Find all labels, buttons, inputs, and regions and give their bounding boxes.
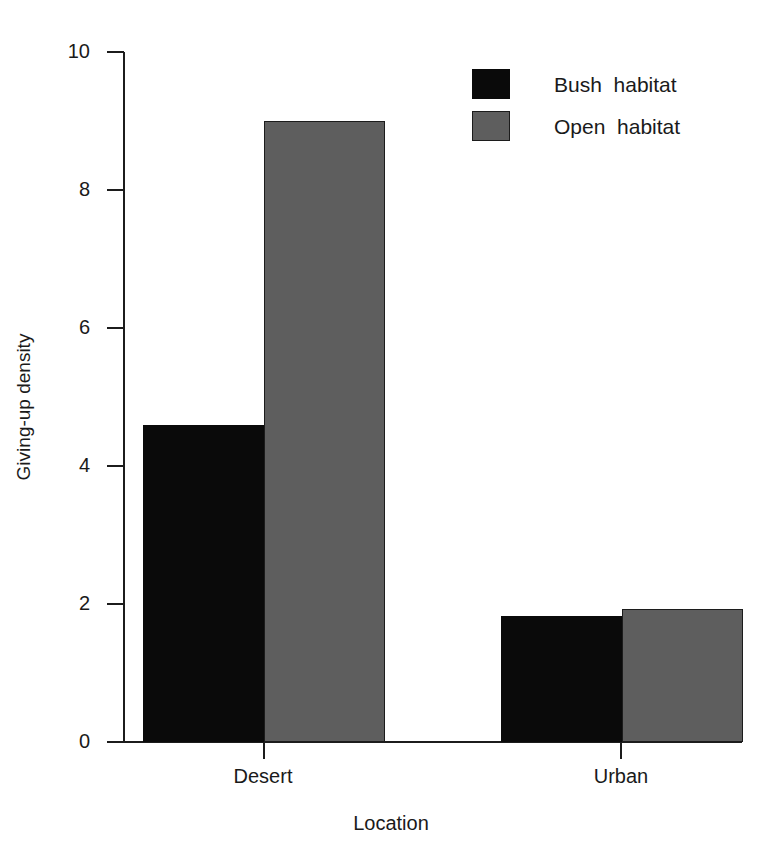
y-tick-label: 4 [50,455,90,475]
y-tick-mark [107,603,124,605]
y-tick-mark [107,741,124,743]
bar-urban-bush [501,616,622,742]
y-tick-mark [107,51,124,53]
x-tick-label-urban: Urban [551,765,691,787]
x-tick-mark-urban [620,743,622,759]
legend-swatch-bush-habitat [472,69,510,99]
y-tick-mark [107,465,124,467]
y-tick-label: 0 [50,731,90,751]
y-axis-line [123,52,125,743]
bar-chart-figure: 10 8 6 4 2 0 Desert Urban Location Givin… [0,0,782,859]
chart-legend: Bush habitat Open habitat [472,63,742,147]
y-tick-label: 2 [50,593,90,613]
y-axis-title: Giving-up density [14,277,34,537]
legend-swatch-open-habitat [472,111,510,141]
x-axis-title: Location [0,812,782,834]
x-tick-label-desert: Desert [193,765,333,787]
y-tick-label: 10 [50,41,90,61]
legend-item-open-habitat: Open habitat [472,105,742,147]
legend-label-bush-habitat: Bush habitat [554,73,677,96]
bar-desert-bush [143,425,264,742]
y-tick-label: 8 [50,179,90,199]
bar-urban-open [622,609,743,742]
y-tick-label: 6 [50,317,90,337]
y-tick-mark [107,189,124,191]
x-tick-mark-desert [263,743,265,759]
legend-label-open-habitat: Open habitat [554,115,680,138]
legend-item-bush-habitat: Bush habitat [472,63,742,105]
bar-desert-open [264,121,385,742]
y-tick-mark [107,327,124,329]
